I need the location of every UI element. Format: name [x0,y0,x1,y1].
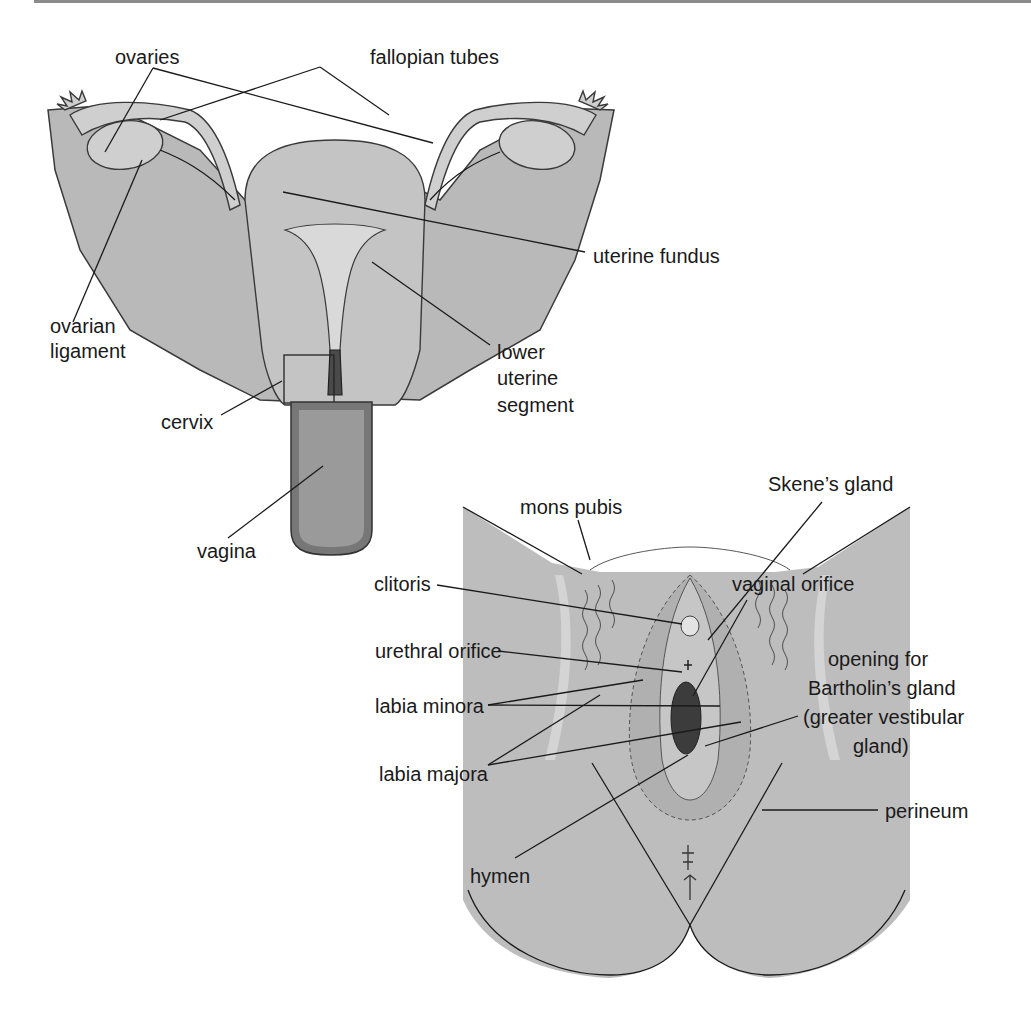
label-labia-minora: labia minora [375,695,484,718]
label-lower-uterine-segment-line2: uterine [497,367,558,390]
vagina-canal [291,402,372,555]
label-bartholin-line4: gland) [853,735,909,758]
label-cervix: cervix [161,411,213,434]
label-lower-uterine-segment-line3: segment [497,394,574,417]
label-ovarian-ligament-line1: ovarian [50,315,116,338]
clitoris-glans [681,616,699,636]
uterus [245,140,425,405]
label-ovaries: ovaries [115,46,179,69]
vaginal-opening [671,682,701,754]
label-lower-uterine-segment-line1: lower [497,341,545,364]
label-bartholin-line1: opening for [828,648,928,671]
label-ovarian-ligament-line2: ligament [50,340,126,363]
label-bartholin-line2: Bartholin’s gland [808,677,956,700]
label-perineum: perineum [885,800,968,823]
label-labia-majora: labia majora [379,763,488,786]
label-urethral-orifice: urethral orifice [375,640,502,663]
label-vagina: vagina [197,540,256,563]
label-uterine-fundus: uterine fundus [593,245,720,268]
label-vaginal-orifice: vaginal orifice [732,573,854,596]
label-bartholin-line3: (greater vestibular [803,706,964,729]
label-skenes-gland: Skene’s gland [768,473,893,496]
label-fallopian-tubes: fallopian tubes [370,46,499,69]
label-clitoris: clitoris [374,573,431,596]
anatomy-illustration [0,0,1031,1015]
label-hymen: hymen [470,865,530,888]
label-mons-pubis: mons pubis [520,496,622,519]
